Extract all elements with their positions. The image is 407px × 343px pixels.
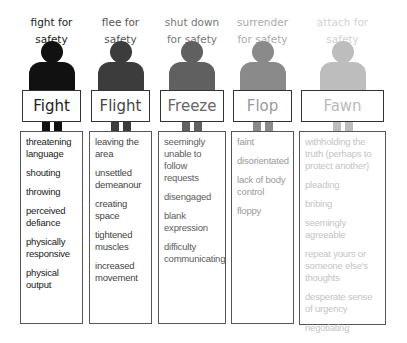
list-item: disorientated <box>237 155 288 167</box>
title-flight: Flight <box>91 90 150 122</box>
list-item: desperate sense of urgency <box>305 291 380 315</box>
list-item: increased movement <box>95 260 146 284</box>
title-fight: Fight <box>22 90 81 122</box>
list-item: repeat yours or someone else's thoughts <box>305 248 380 284</box>
list-item: creating space <box>95 198 146 222</box>
list-item: pleading <box>305 179 380 191</box>
list-item: tightened muscles <box>95 229 146 253</box>
list-flop: faint disorientated lack of body control… <box>231 131 294 324</box>
list-item: physically responsive <box>26 236 77 260</box>
list-item: throwing <box>26 186 77 198</box>
list-item: lack of body control <box>237 174 288 198</box>
list-item: shouting <box>26 167 77 179</box>
list-item: faint <box>237 136 288 148</box>
list-item: difficulty communicating <box>164 241 220 265</box>
list-item: seemingly agreeable <box>305 217 380 241</box>
list-item: bribing <box>305 198 380 210</box>
list-fawn: withholding the truth (perhaps to protec… <box>299 131 386 325</box>
list-item: leaving the area <box>95 136 146 160</box>
list-flight: leaving the area unsettled demeanour cre… <box>89 131 152 324</box>
list-item: perceived defiance <box>26 205 77 229</box>
list-item: seemingly unable to follow requests <box>164 136 220 184</box>
list-item: disengaged <box>164 191 220 203</box>
list-item: unsettled demeanour <box>95 167 146 191</box>
title-flop: Flop <box>233 90 292 122</box>
title-freeze: Freeze <box>160 90 224 122</box>
list-item: floppy <box>237 205 288 217</box>
list-freeze: seemingly unable to follow requests dise… <box>158 131 226 324</box>
list-item: blank expression <box>164 210 220 234</box>
list-item: withholding the truth (perhaps to protec… <box>305 136 380 172</box>
list-item: physical output <box>26 267 77 291</box>
list-item: threatening language <box>26 136 77 160</box>
list-fight: threatening language shouting throwing p… <box>20 131 83 324</box>
title-fawn: Fawn <box>301 90 384 122</box>
list-item: negotiating <box>305 322 380 334</box>
